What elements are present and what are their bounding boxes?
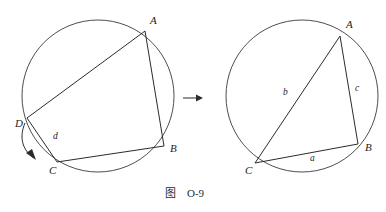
transform-arrow-head-icon	[196, 95, 203, 102]
left-circle	[22, 20, 174, 172]
caption-number: O-9	[187, 187, 205, 199]
right-circle	[226, 20, 378, 172]
chord-d-a	[27, 31, 145, 118]
right-figure-group: A B C a b c	[226, 18, 378, 176]
right-chords	[255, 36, 358, 163]
figure-caption: 图 O-9	[165, 187, 205, 199]
chord-b-c	[57, 146, 164, 162]
figure-page: A B C D d A	[0, 0, 386, 212]
side-label-a: a	[310, 153, 315, 163]
side-label-b: b	[283, 87, 288, 97]
left-chords	[27, 31, 164, 162]
vertex-label-d-left: D	[14, 117, 23, 129]
chord-c-a	[255, 36, 340, 163]
chord-a-b	[145, 31, 164, 146]
geometry-figure-canvas: A B C D d A	[0, 0, 386, 212]
left-figure-group: A B C D d	[14, 14, 177, 176]
vertex-label-b-right: B	[365, 141, 372, 153]
left-vertex-labels: A B C D	[14, 14, 177, 176]
side-label-c: c	[355, 83, 360, 93]
vertex-label-a-left: A	[149, 14, 157, 26]
vertex-label-b-left: B	[170, 142, 177, 154]
motion-arrow-head-icon	[26, 149, 36, 160]
side-label-d: d	[53, 131, 58, 141]
vertex-label-c-left: C	[49, 164, 57, 176]
vertex-label-a-right: A	[345, 18, 353, 30]
caption-prefix: 图	[165, 187, 176, 199]
vertex-label-c-right: C	[245, 164, 253, 176]
transform-arrow	[183, 95, 203, 102]
